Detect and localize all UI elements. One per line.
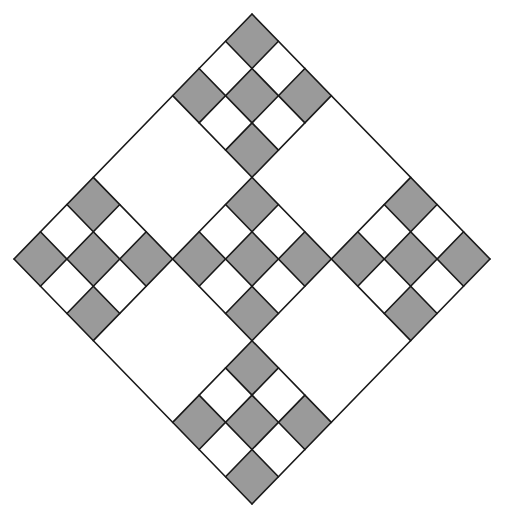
checker-diamond-diagram [0, 0, 514, 529]
shaded-cells-layer [14, 14, 490, 504]
